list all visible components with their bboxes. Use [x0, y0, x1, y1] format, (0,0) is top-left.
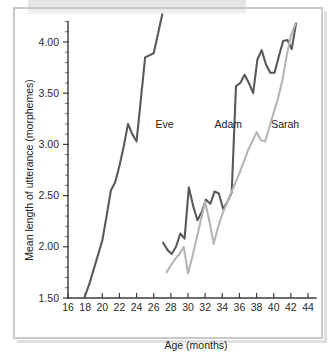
- x-tick-label: 32: [199, 301, 211, 313]
- y-axis-tick-labels: 1.502.002.503.003.504.00: [39, 36, 60, 304]
- x-tick-label: 30: [182, 301, 194, 313]
- x-tick-label: 18: [79, 301, 91, 313]
- series-line-eve: [84, 14, 162, 298]
- x-tick-label: 44: [302, 301, 314, 313]
- y-axis-title: Mean length of utterance (morphemes): [23, 79, 35, 261]
- y-tick-label: 3.50: [39, 87, 60, 99]
- x-tick-label: 16: [62, 301, 74, 313]
- series-line-adam: [163, 24, 296, 254]
- y-tick-label: 2.50: [39, 189, 60, 201]
- x-tick-label: 40: [268, 301, 280, 313]
- y-tick-label: 4.00: [39, 36, 60, 48]
- y-tick-label: 1.50: [39, 292, 60, 304]
- x-tick-label: 24: [131, 301, 143, 313]
- series-inline-labels: EveAdamSarah: [155, 118, 299, 130]
- x-tick-label: 22: [114, 301, 126, 313]
- x-tick-label: 20: [96, 301, 108, 313]
- y-tick-label: 2.00: [39, 240, 60, 252]
- series-lines: [84, 14, 296, 298]
- series-line-sarah: [167, 25, 296, 274]
- x-tick-label: 34: [216, 301, 228, 313]
- x-tick-label: 36: [234, 301, 246, 313]
- x-axis-major-ticks: [68, 293, 308, 298]
- x-tick-label: 26: [148, 301, 160, 313]
- series-label-eve: Eve: [155, 118, 173, 130]
- series-label-adam: Adam: [215, 118, 243, 130]
- series-label-sarah: Sarah: [271, 118, 299, 130]
- x-axis-title: Age (months): [164, 339, 227, 351]
- figure-page: 1.502.002.503.003.504.00 161820222426283…: [0, 0, 336, 353]
- x-tick-label: 38: [251, 301, 263, 313]
- x-tick-label: 42: [285, 301, 297, 313]
- x-tick-label: 28: [165, 301, 177, 313]
- y-tick-label: 3.00: [39, 138, 60, 150]
- x-axis-tick-labels: 161820222426283032343638404244: [62, 301, 314, 313]
- line-chart: 1.502.002.503.003.504.00 161820222426283…: [0, 0, 336, 353]
